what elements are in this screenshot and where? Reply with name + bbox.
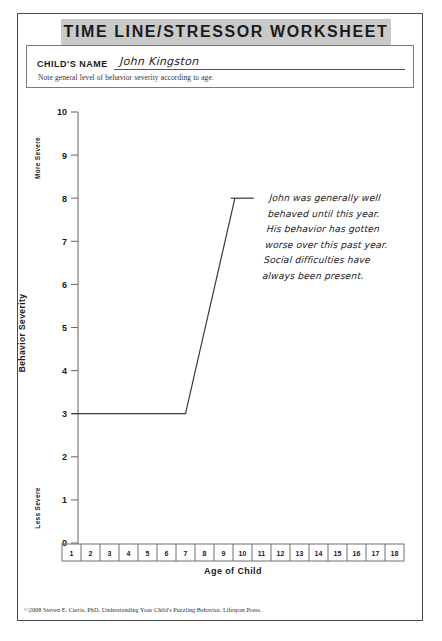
child-name-input[interactable]: John Kingston xyxy=(114,54,405,70)
annotation-line: Social difficulties have xyxy=(263,252,416,268)
annotation-line: John was generally well xyxy=(269,190,422,206)
page-border xyxy=(17,13,423,621)
annotation-line: worse over this past year. xyxy=(265,237,418,253)
child-name-value: John Kingston xyxy=(119,55,199,68)
annotation-line: always been present. xyxy=(262,268,415,284)
child-name-label: CHILD'S NAME xyxy=(37,59,108,70)
copyright-footer: ©2008 Steven E. Curtis, PhD, Understandi… xyxy=(24,606,261,613)
worksheet-title-bar: TIME LINE/STRESSOR WORKSHEET xyxy=(61,19,391,45)
page-title: TIME LINE/STRESSOR WORKSHEET xyxy=(64,23,389,41)
annotation-line: behaved until this year. xyxy=(267,206,420,222)
instruction-text: Note general level of behavior severity … xyxy=(38,73,214,82)
handwritten-annotation: John was generally well behaved until th… xyxy=(262,190,422,284)
annotation-line: His behavior has gotten xyxy=(266,221,419,237)
child-name-box: CHILD'S NAME John Kingston Note general … xyxy=(26,45,414,88)
child-name-row: CHILD'S NAME John Kingston xyxy=(37,54,405,70)
